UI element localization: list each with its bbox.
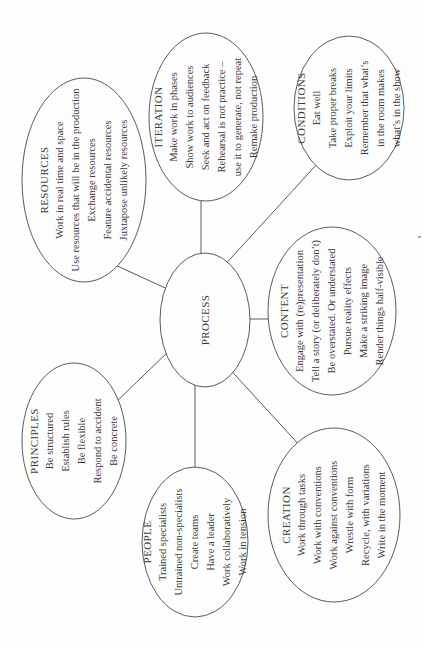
node-line: Trained specialists [155,503,171,581]
node-title: PEOPLE [139,521,155,564]
node-line: Remember that what’s [357,61,373,155]
node-principles: PRINCIPLES Be structured Establish rules… [22,363,126,519]
node-line: Engage with (re)presentation [292,250,308,372]
node-line: Tell a story (or deliberately don’t) [308,240,324,382]
node-line: Remake production [246,76,262,159]
node-line: Work with conventions [310,466,326,564]
node-line: Juxtapose unlikely resources [116,120,132,241]
concept-map: PROCESS RESOURCES Work in real time and … [0,0,423,647]
node-line: Seek and act on feedback [198,64,214,171]
node-line: Respond to accident [90,398,106,483]
node-line: Untrained non-specialists [171,489,187,596]
node-process: PROCESS [160,253,250,387]
node-content: CONTENT Engage with (re)presentation Tel… [268,227,396,395]
node-line: Pursue reality effects [340,267,356,355]
node-line: Work through tasks [294,474,310,556]
node-resources: RESOURCES Work in real time and space Us… [22,78,146,282]
node-line: Feature accidental resources [100,121,116,240]
node-line: Recycle, with variations [358,464,374,566]
node-line: Wrestle with form [342,477,358,554]
node-line: Be concrete [106,416,122,466]
node-people: PEOPLE Trained specialists Untrained non… [142,467,248,617]
scanned-page: PROCESS RESOURCES Work in real time and … [0,0,423,647]
node-creation: CREATION Work through tasks Work with co… [268,428,400,602]
node-line: Take proper breaks [325,68,341,148]
node-line: Exploit your limits [341,68,357,147]
node-title: PRINCIPLES [26,408,42,474]
node-line: use it to generate, not repeat [230,58,246,176]
node-line: Work in tension [235,509,251,576]
node-title: PROCESS [197,295,213,346]
node-title: RESOURCES [36,146,52,213]
node-line: in the room makes [373,69,389,147]
node-line: Exchange resources [84,138,100,222]
scan-artifact [418,236,421,238]
node-line: Make work in phases [166,72,182,162]
node-line: Use resources that will be in the produc… [68,89,84,272]
node-line: Work in real time and space [52,121,68,238]
node-conditions: CONDITIONS Eat well Take proper breaks E… [294,36,404,180]
node-title: CONDITIONS [293,72,309,143]
node-line: what’s in the show [389,69,405,147]
node-line: Render things half-visible [372,256,388,365]
node-line: Make a striking image [356,264,372,358]
node-title: CONTENT [276,284,292,338]
node-line: Work collaboratively [219,498,235,587]
node-title: CREATION [278,486,294,544]
node-line: Eat well [309,91,325,126]
node-line: Rehearsal is not practice – [214,62,230,173]
node-line: Work against conventions [326,461,342,570]
node-title: ITERATION [150,86,166,147]
node-line: Establish rules [58,410,74,472]
node-line: Be flexible [74,418,90,464]
node-line: Write in the moment [374,472,390,559]
node-line: Create teams [187,515,203,570]
node-line: Show work to audiences [182,66,198,169]
node-line: Have a leader [203,513,219,571]
node-iteration: ITERATION Make work in phases Show work … [149,33,263,201]
node-line: Be structured [42,413,58,469]
node-line: Be overstated. Or understated [324,249,340,374]
